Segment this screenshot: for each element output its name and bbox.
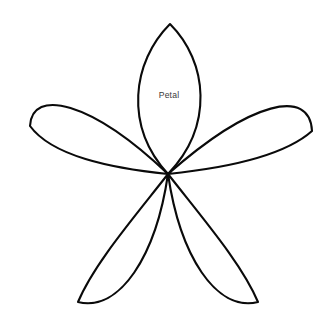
petal-diagram-canvas: Petal: [0, 0, 324, 322]
five-petal-flower-figure: Petal: [0, 0, 324, 322]
figure-background: [0, 0, 324, 322]
petal-label: Petal: [159, 90, 180, 100]
